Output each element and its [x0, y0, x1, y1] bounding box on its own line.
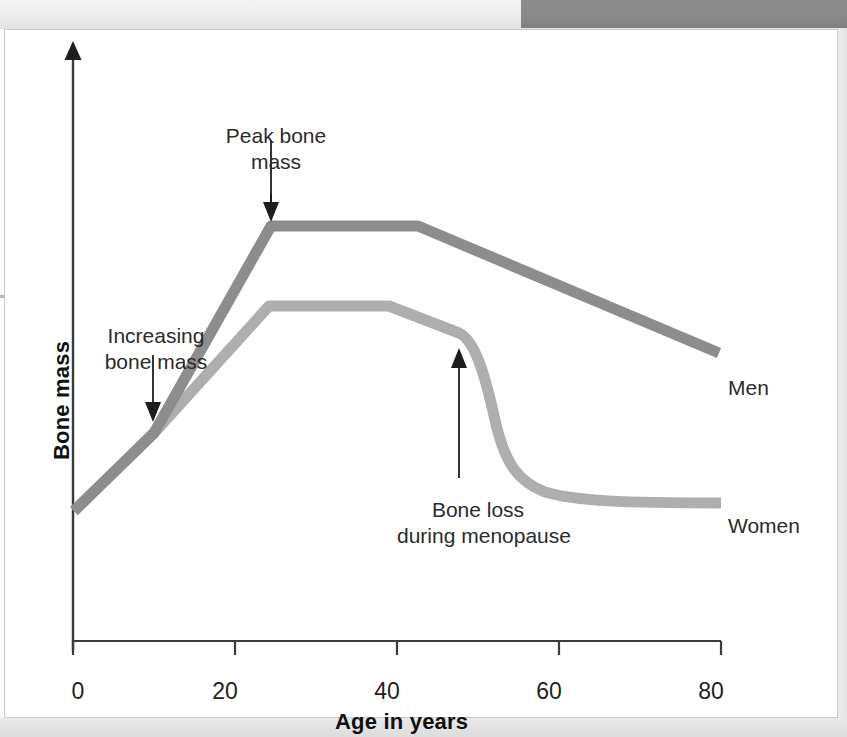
- legend-label-men: Men: [728, 375, 769, 401]
- annotation-increasing-bone-mass: Increasing bone mass: [103, 323, 209, 374]
- x-tick-label-0: 0: [48, 677, 108, 705]
- x-tick-label-60: 60: [519, 677, 579, 705]
- annotation-bone-loss-menopause: Bone loss during menopause: [397, 497, 559, 548]
- x-axis: [73, 641, 721, 655]
- x-axis-title: Age in years: [335, 709, 468, 736]
- annotation-peak-line1: Peak bone: [201, 123, 351, 149]
- x-tick-label-40: 40: [357, 677, 417, 705]
- annotation-peak-line2: mass: [201, 149, 351, 175]
- annotation-boneloss-line1: Bone loss: [397, 497, 559, 523]
- page-right-band: [838, 29, 847, 718]
- legend-label-women: Women: [728, 513, 800, 539]
- annotation-boneloss-line2: during menopause: [397, 523, 559, 549]
- annotation-arrow-bone-loss: [451, 348, 467, 478]
- x-tick-label-20: 20: [195, 677, 255, 705]
- annotation-peak-bone-mass: Peak bone mass: [201, 123, 351, 174]
- chart-panel: Peak bone mass Increasing bone mass Bone…: [4, 29, 838, 718]
- page-root: Peak bone mass Increasing bone mass Bone…: [0, 0, 847, 737]
- annotation-increase-line1: Increasing: [103, 323, 209, 349]
- y-axis-title: Bone mass: [49, 341, 76, 460]
- x-tick-label-80: 80: [681, 677, 741, 705]
- annotation-increase-line2: bone mass: [103, 349, 209, 375]
- page-top-dark-band: [521, 0, 847, 28]
